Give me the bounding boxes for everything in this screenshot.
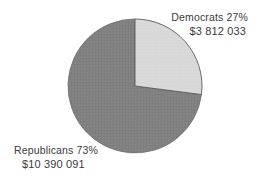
pie-chart: Democrats 27% $3 812 033 Republicans 73%…: [0, 0, 254, 185]
slice-label-republicans-line1: Republicans 73%: [14, 144, 98, 156]
slice-label-republicans: Republicans 73% $10 390 091: [14, 143, 98, 171]
slice-label-republicans-amount: $10 390 091: [14, 157, 98, 171]
slice-label-democrats: Democrats 27% $3 812 033: [171, 10, 248, 38]
slice-label-democrats-amount: $3 812 033: [171, 24, 248, 38]
slice-label-democrats-line1: Democrats 27%: [171, 11, 248, 23]
